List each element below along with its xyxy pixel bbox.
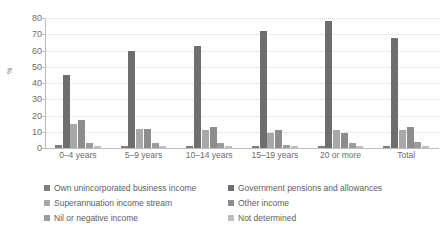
bar [399,130,406,148]
bar [407,127,414,148]
bar [78,120,85,148]
bar [267,133,274,148]
bars [373,18,439,148]
legend-label: Government pensions and allowances [238,183,382,193]
y-tick-label-10: 10 [16,127,42,136]
chart-legend: Own unincorporated business incomeGovern… [44,180,436,232]
y-tick-label-70: 70 [16,30,42,39]
y-axis-tick-labels: 01020304050607080 [14,0,42,172]
bar [291,146,298,148]
bar-group [45,0,111,148]
bar [341,133,348,148]
y-tick-label-30: 30 [16,95,42,104]
x-tick-label: 10–14 years [176,150,242,160]
bar [275,130,282,148]
bars [111,18,177,148]
bar [422,146,429,148]
bar-groups [45,0,439,148]
legend-item[interactable]: Superannuation income stream [44,195,228,210]
y-tick-label-20: 20 [16,111,42,120]
x-tick-label: 5–9 years [111,150,177,160]
y-tick-label-60: 60 [16,46,42,55]
x-tick-label: 15–19 years [242,150,308,160]
bar-chart: % 01020304050607080 0–4 years5–9 years10… [0,0,444,237]
bar [94,146,101,148]
legend-item[interactable]: Not determined [228,210,436,225]
bar [349,143,356,148]
bar [333,130,340,148]
bar [136,129,143,149]
bar-group [176,0,242,148]
x-tick-label: 20 or more [308,150,374,160]
legend-item[interactable]: Nil or negative income [44,210,228,225]
legend-item[interactable]: Own unincorporated business income [44,180,228,195]
bar [128,51,135,149]
bar [210,127,217,148]
bar [202,130,209,148]
bar [86,143,93,148]
bar [121,146,128,148]
bar [260,31,267,148]
bar [318,146,325,148]
bar [63,75,70,148]
legend-label: Nil or negative income [54,213,138,223]
legend-swatch-icon [228,200,234,206]
x-axis-tick-labels: 0–4 years5–9 years10–14 years15–19 years… [45,150,439,160]
y-tick-label-40: 40 [16,79,42,88]
legend-swatch-icon [44,200,50,206]
bar [217,143,224,148]
legend-label: Superannuation income stream [54,198,172,208]
legend-swatch-icon [44,215,50,221]
bar [194,46,201,148]
legend-swatch-icon [228,215,234,221]
bars [308,18,374,148]
x-tick-label: 0–4 years [45,150,111,160]
bar [159,146,166,148]
bar [391,38,398,149]
legend-item[interactable]: Other income [228,195,436,210]
bar-group [308,0,374,148]
bar [152,143,159,148]
bar [414,142,421,149]
legend-label: Own unincorporated business income [54,183,196,193]
bar [186,146,193,148]
bar [252,146,259,148]
y-tick-label-50: 50 [16,62,42,71]
legend-label: Other income [238,198,289,208]
bars [242,18,308,148]
legend-swatch-icon [228,185,234,191]
bar-group [111,0,177,148]
bars [176,18,242,148]
bar-group [242,0,308,148]
legend-item[interactable]: Government pensions and allowances [228,180,436,195]
legend-label: Not determined [238,213,296,223]
bar [383,146,390,148]
y-tick-label-0: 0 [16,144,42,153]
bar [325,21,332,148]
bar [144,129,151,149]
bar [225,146,232,148]
bar [70,124,77,148]
legend-swatch-icon [44,185,50,191]
bar [283,145,290,148]
y-tick-label-80: 80 [16,14,42,23]
plot-area: % 01020304050607080 0–4 years5–9 years10… [0,0,444,172]
y-axis-label: % [6,68,13,74]
bar [356,146,363,148]
x-tick-label: Total [373,150,439,160]
bars [45,18,111,148]
bar [55,145,62,148]
bar-group [373,0,439,148]
